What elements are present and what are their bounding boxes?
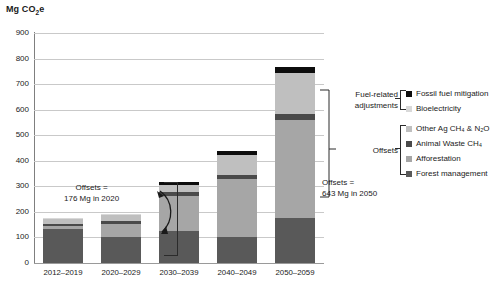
x-tick-label-4: 2050–2059 [263,268,327,277]
bar-segment-forest-management[interactable] [217,237,257,263]
legend-swatch-icon [406,91,412,97]
legend-item-1-1[interactable]: Animal Waste CH₄ [406,136,490,151]
plot-area: 0100200300400500600700800900 2012–201920… [34,32,324,264]
gridline-800 [34,59,324,60]
y-tick-label-800: 800 [16,55,29,63]
y-tick-label-300: 300 [16,182,29,190]
offsets-2020-line2: 176 Mg in 2020 [64,193,119,204]
offsets-2020-annotation: Offsets = 176 Mg in 2020 [64,182,119,204]
y-tick-label-700: 700 [16,80,29,88]
y-tick-label-100: 100 [16,233,29,241]
x-tick-label-0: 2012–2019 [31,268,95,277]
legend-item-label: Animal Waste CH₄ [416,139,482,148]
offsets-2020-bracket [164,182,178,256]
legend-group-title-0: Fuel-relatedadjustments [336,90,398,111]
y-tick-label-200: 200 [16,208,29,216]
bar-segment-forest-management[interactable] [275,218,315,263]
y-axis-line [34,32,35,264]
legend-item-label: Afforestation [416,154,461,163]
bar-segment-forest-management[interactable] [43,229,83,263]
y-tick-label-400: 400 [16,157,29,165]
legend-group-title-1: Offsets [336,146,398,157]
bar-segment-other-ag-ch4-n2o[interactable] [217,155,257,174]
legend-item-label: Fossil fuel mitigation [416,89,488,98]
legend-item-1-0[interactable]: Other Ag CH₄ & N₂O [406,121,490,136]
offsets-2050-line2: 643 Mg in 2050 [322,188,377,199]
bar-2012-2019[interactable] [43,218,83,263]
legend-item-label: Forest management [416,169,488,178]
legend-swatch-icon [406,141,412,147]
y-axis-title: Mg CO2e [6,4,44,16]
bar-segment-forest-management[interactable] [101,237,141,263]
legend-item-1-2[interactable]: Afforestation [406,151,490,166]
legend-group-0: Fuel-relatedadjustmentsFossil fuel mitig… [336,86,492,116]
x-tick-label-1: 2020–2029 [89,268,153,277]
legend-item-0-1[interactable]: Bioelectricity [406,101,488,116]
legend-swatch-icon [406,156,412,162]
bar-segment-afforestation[interactable] [275,120,315,218]
chart-figure: Mg CO2e 0100200300400500600700800900 201… [0,0,492,293]
bar-2050-2059[interactable] [275,67,315,263]
legend-item-label: Bioelectricity [416,104,461,113]
offsets-2020-line1: Offsets = [64,182,119,193]
legend-swatch-icon [406,126,412,132]
legend-swatch-icon [406,106,412,112]
legend-item-1-3[interactable]: Forest management [406,166,490,181]
legend-group-brace-stem-0 [395,98,401,99]
legend-group-1: OffsetsOther Ag CH₄ & N₂OAnimal Waste CH… [336,121,492,181]
bar-segment-afforestation[interactable] [101,224,141,236]
bar-2040-2049[interactable] [217,151,257,263]
legend-item-label: Other Ag CH₄ & N₂O [416,124,490,133]
legend-item-0-0[interactable]: Fossil fuel mitigation [406,86,488,101]
gridline-900 [34,33,324,34]
y-tick-label-600: 600 [16,106,29,114]
y-tick-label-0: 0 [25,259,29,267]
x-tick-label-2: 2030–2039 [147,268,211,277]
legend-group-brace-stem-1 [395,148,401,149]
gridline-0 [34,263,324,264]
y-tick-label-500: 500 [16,131,29,139]
bar-segment-other-ag-ch4-n2o[interactable] [275,73,315,114]
bar-2020-2029[interactable] [101,214,141,263]
x-tick-label-3: 2040–2049 [205,268,269,277]
y-tick-label-900: 900 [16,29,29,37]
bar-segment-afforestation[interactable] [217,179,257,237]
legend-swatch-icon [406,171,412,177]
